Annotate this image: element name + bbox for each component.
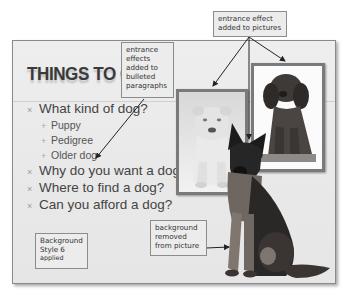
callout-background-style: Background Style 6 applied [35,233,88,269]
callout-entrance-effect-pictures: entrance effect added to pictures [213,11,287,37]
arrow-to-brown-puppy [249,37,285,61]
callout-background-removed: background removed from picture [150,220,207,256]
arrow-to-bullets [96,99,144,158]
arrow-to-shepherd [206,247,229,248]
arrow-to-white-puppy [213,37,249,86]
callout-entrance-effects-bullets: entrance effects added to bulleted parag… [121,42,174,98]
